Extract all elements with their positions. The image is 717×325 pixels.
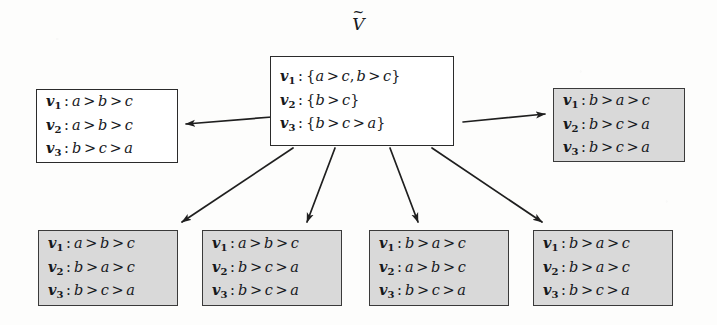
preference-value: a>b>c: [72, 117, 133, 133]
preference-value: a>b>c: [72, 93, 133, 109]
voter-label: v2: [379, 258, 395, 275]
voter-index: 2: [221, 266, 229, 277]
preference-value: a>b>c: [238, 235, 299, 251]
preference-line: v2:b>c>a: [563, 113, 675, 136]
preference-line: v1:a>b>c: [212, 232, 332, 255]
voter-index: 1: [572, 99, 580, 110]
colon-separator: :: [62, 140, 72, 156]
voter-index: 1: [289, 75, 297, 86]
colon-separator: :: [64, 282, 74, 298]
preference-value: b>c>a: [72, 140, 133, 156]
voter-label: v1: [563, 91, 579, 108]
voter-index: 3: [289, 122, 297, 133]
preference-line: v1:{a>c,b>c}: [280, 65, 444, 88]
voter-label: v3: [379, 281, 395, 298]
colon-separator: :: [228, 282, 238, 298]
center-node: v1:{a>c,b>c}v2:{b>c}v3:{b>c>a}: [270, 56, 454, 146]
colon-separator: :: [579, 139, 589, 155]
preference-value: {b>c>a}: [306, 115, 386, 131]
voter-label: v1: [379, 234, 395, 251]
voter-index: 2: [55, 124, 63, 135]
preference-value: b>a>c: [405, 235, 466, 251]
arrow-center-to-bottom-2: [307, 148, 335, 222]
bottom-node-3: v1:b>a>cv2:a>b>cv3:b>c>a: [369, 230, 509, 306]
voter-label: v3: [212, 281, 228, 298]
colon-separator: :: [62, 93, 72, 109]
preference-line: v1:b>a>c: [543, 232, 663, 255]
preference-line: v3:b>c>a: [48, 279, 168, 302]
preference-line: v2:{b>c}: [280, 89, 444, 112]
preference-line: v1:b>a>c: [563, 89, 675, 112]
colon-separator: :: [579, 92, 589, 108]
voter-label: v2: [543, 258, 559, 275]
preference-value: {b>c}: [306, 92, 360, 108]
voter-label: v3: [563, 138, 579, 155]
preference-value: b>a>c: [74, 259, 135, 275]
voter-label: v3: [280, 114, 296, 131]
preference-value: b>c>a: [589, 139, 650, 155]
colon-separator: :: [559, 282, 569, 298]
voter-label: v3: [48, 281, 64, 298]
preference-line: v1:a>b>c: [48, 232, 168, 255]
voter-index: 3: [55, 147, 63, 158]
bottom-node-4: v1:b>a>cv2:b>a>cv3:b>c>a: [533, 230, 673, 306]
bottom-node-1: v1:a>b>cv2:b>a>cv3:b>c>a: [38, 230, 178, 306]
colon-separator: :: [228, 259, 238, 275]
colon-separator: :: [64, 235, 74, 251]
voter-label: v1: [48, 234, 64, 251]
preference-value: b>c>a: [238, 259, 299, 275]
preference-line: v2:a>b>c: [379, 256, 499, 279]
arrow-center-to-bottom-3: [390, 148, 418, 222]
preference-line: v3:b>c>a: [212, 279, 332, 302]
preference-value: a>b>c: [74, 235, 135, 251]
arrow-center-to-bottom-4: [432, 148, 542, 222]
voter-index: 3: [572, 146, 580, 157]
preference-line: v3:b>c>a: [46, 137, 168, 160]
voter-index: 1: [552, 242, 560, 253]
preference-value: b>c>a: [238, 282, 299, 298]
colon-separator: :: [395, 259, 405, 275]
bottom-node-2: v1:a>b>cv2:b>c>av3:b>c>a: [202, 230, 342, 306]
preference-value: b>a>c: [569, 259, 630, 275]
voter-label: v1: [280, 67, 296, 84]
voter-index: 2: [289, 99, 297, 110]
preference-line: v1:a>b>c: [46, 90, 168, 113]
colon-separator: :: [559, 259, 569, 275]
colon-separator: :: [395, 235, 405, 251]
voter-label: v2: [280, 91, 296, 108]
preference-value: b>a>c: [589, 92, 650, 108]
voter-index: 3: [552, 289, 560, 300]
voter-label: v2: [563, 115, 579, 132]
preference-line: v2:b>c>a: [212, 256, 332, 279]
voter-index: 2: [552, 266, 560, 277]
preference-line: v1:b>a>c: [379, 232, 499, 255]
preference-value: a>b>c: [405, 259, 466, 275]
preference-value: b>c>a: [589, 116, 650, 132]
arrow-center-to-left: [186, 117, 272, 124]
colon-separator: :: [296, 92, 306, 108]
voter-index: 2: [57, 266, 65, 277]
voter-label: v1: [212, 234, 228, 251]
voter-label: v2: [48, 258, 64, 275]
colon-separator: :: [579, 116, 589, 132]
preference-value: {a>c,b>c}: [306, 68, 400, 84]
voter-index: 3: [221, 289, 229, 300]
voter-label: v2: [46, 116, 62, 133]
colon-separator: :: [559, 235, 569, 251]
colon-separator: :: [228, 235, 238, 251]
preference-line: v3:b>c>a: [379, 279, 499, 302]
voter-index: 1: [388, 242, 396, 253]
preference-value: b>c>a: [569, 282, 630, 298]
colon-separator: :: [62, 117, 72, 133]
colon-separator: :: [64, 259, 74, 275]
right-node: v1:b>a>cv2:b>c>av3:b>c>a: [553, 88, 685, 162]
preference-line: v2:b>a>c: [48, 256, 168, 279]
voter-index: 2: [572, 123, 580, 134]
colon-separator: :: [395, 282, 405, 298]
preference-line: v3:b>c>a: [563, 136, 675, 159]
voter-label: v3: [543, 281, 559, 298]
voter-index: 3: [57, 289, 65, 300]
voter-label: v3: [46, 139, 62, 156]
preference-value: b>a>c: [569, 235, 630, 251]
voter-index: 1: [55, 100, 63, 111]
